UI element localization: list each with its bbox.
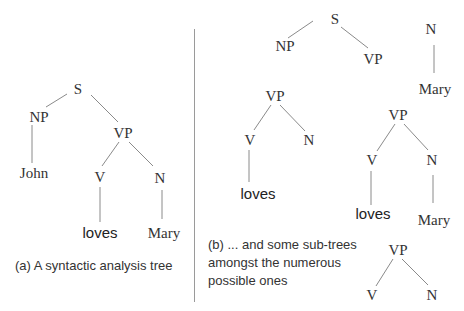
subtree5-node-n: N: [427, 288, 438, 303]
node-s: S: [74, 82, 82, 97]
subtree1-node-np: NP: [275, 39, 294, 54]
subtree5-node-vp: VP: [388, 243, 407, 258]
caption-a: (a) A syntactic analysis tree: [15, 257, 173, 275]
subtree2-node-n: N: [426, 22, 437, 37]
node-n: N: [155, 171, 166, 186]
subtree3-leaf-loves: loves: [240, 186, 275, 201]
subtree3-node-v: V: [245, 133, 256, 148]
panel-divider: [194, 29, 195, 302]
node-vp: VP: [113, 126, 132, 141]
syntax-tree-figure: S NP VP John V N loves Mary (a) A syntac…: [0, 0, 464, 311]
subtree5-node-v: V: [367, 288, 378, 303]
subtree4-node-n: N: [427, 153, 438, 168]
subtree2-leaf-mary: Mary: [419, 82, 452, 97]
caption-b-line-3: possible ones: [208, 272, 357, 290]
subtree4-node-vp: VP: [388, 108, 407, 123]
node-np: NP: [29, 110, 48, 125]
leaf-loves: loves: [82, 225, 117, 240]
caption-b-line-1: (b) ... and some sub-trees: [208, 236, 357, 254]
subtree1-node-vp: VP: [363, 52, 382, 67]
subtree1-node-s: S: [331, 12, 339, 27]
subtree4-leaf-mary: Mary: [418, 213, 451, 228]
subtree4-leaf-loves: loves: [355, 206, 390, 221]
leaf-john: John: [20, 166, 48, 181]
node-v: V: [95, 170, 106, 185]
leaf-mary: Mary: [148, 226, 181, 241]
caption-b: (b) ... and some sub-trees amongst the n…: [208, 236, 357, 290]
subtree3-node-vp: VP: [265, 89, 284, 104]
caption-b-line-2: amongst the numerous: [208, 254, 357, 272]
subtree4-node-v: V: [367, 153, 378, 168]
subtree3-node-n: N: [304, 133, 315, 148]
